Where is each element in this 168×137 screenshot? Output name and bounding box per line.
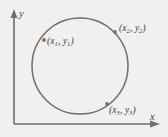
- point-marker-p2: [113, 30, 117, 34]
- x-axis-label: x: [150, 112, 155, 123]
- x-sub-p3: 3: [116, 109, 119, 116]
- point-label-p2: (x2, y2): [119, 24, 146, 34]
- y-axis-arrow-icon: [11, 9, 18, 18]
- paren-close-p3: ): [133, 105, 136, 115]
- point-label-p3: (x3, y3): [109, 106, 136, 116]
- y-sub-p1: 1: [67, 40, 70, 47]
- paren-close-p1: ): [71, 36, 74, 46]
- y-sub-p3: 3: [129, 109, 132, 116]
- figure-canvas: [0, 0, 168, 137]
- x-sub-p2: 2: [126, 27, 129, 34]
- y-sub-p2: 2: [139, 27, 142, 34]
- circle-figure: y x (x1, y1) (x2, y2) (x3, y3): [0, 0, 168, 137]
- x-sub-p1: 1: [54, 40, 57, 47]
- point-marker-p1: [42, 38, 46, 42]
- paren-close-p2: ): [143, 23, 146, 33]
- point-label-p1: (x1, y1): [47, 37, 74, 47]
- y-axis-label: y: [19, 9, 24, 20]
